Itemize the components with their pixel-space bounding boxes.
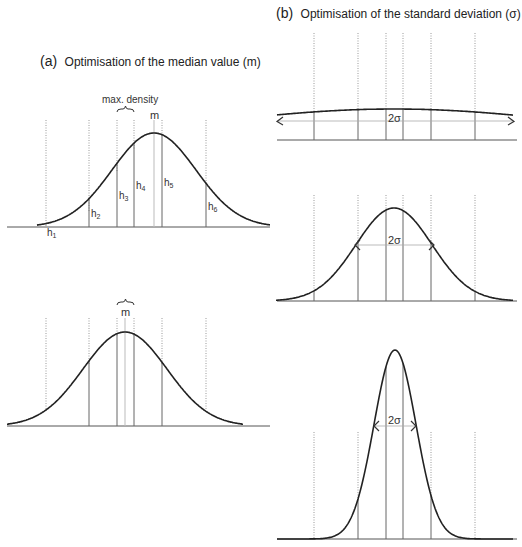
median-label: m <box>121 306 130 318</box>
height-label-h1: h1 <box>47 227 57 239</box>
median-brace <box>117 299 134 305</box>
height-label-h4: h4 <box>136 180 146 192</box>
two-sigma-label: 2σ <box>388 112 401 124</box>
panel-b-narrow-plot: 2σ <box>277 350 517 539</box>
normal-curve <box>276 208 513 300</box>
height-label-h3: h3 <box>119 190 129 202</box>
median-label: m <box>150 109 159 121</box>
two-sigma-label: 2σ <box>388 234 401 246</box>
panel-a-title: (a) Optimisation of the median value (m) <box>40 52 261 69</box>
max-density-label: max. density <box>102 94 158 105</box>
panel-b-title: (b) Optimisation of the standard deviati… <box>276 4 521 21</box>
diagram-canvas: (a) Optimisation of the median value (m)… <box>0 0 522 547</box>
height-label-h5: h5 <box>164 177 174 189</box>
panel-a-top-plot: max. density m h1 h2 h3 h4 h5 h6 <box>7 94 270 239</box>
normal-curve <box>277 350 513 539</box>
max-density-brace <box>117 106 134 112</box>
height-label-h6: h6 <box>208 201 218 213</box>
panel-a-bottom-plot: m <box>7 299 270 426</box>
two-sigma-label: 2σ <box>388 414 401 426</box>
panel-b-wide-plot: 2σ <box>277 33 517 140</box>
height-label-h2: h2 <box>91 208 101 220</box>
panel-b-medium-plot: 2σ <box>276 195 517 301</box>
